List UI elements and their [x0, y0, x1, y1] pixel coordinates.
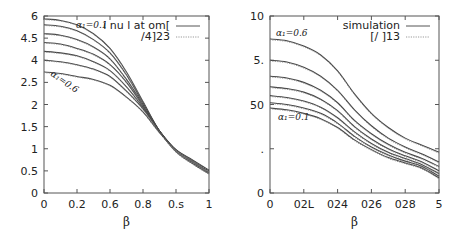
x-tick-label: 0.2 — [68, 198, 86, 211]
alpha-annotation: α₁=0.6 — [49, 68, 81, 94]
series-line-dotted — [44, 25, 209, 173]
right-chart-panel: 002L02402602850.505.10βsimulation[/ ]13α… — [234, 0, 468, 241]
alpha-annotation: α₁=0.1 — [76, 20, 108, 30]
y-tick-label: 10 — [250, 10, 264, 23]
series-group — [270, 39, 439, 179]
y-tick-label: 2 — [31, 99, 38, 112]
y-tick-label: 0 — [31, 187, 38, 200]
y-tick-label: 6 — [31, 10, 38, 23]
series-line-solid — [270, 96, 439, 174]
right-chart: 002L02402602850.505.10βsimulation[/ ]13α… — [234, 0, 468, 241]
x-tick-label: 024 — [327, 198, 348, 211]
y-tick-label: 1.5 — [21, 121, 39, 134]
series-line-solid — [44, 43, 209, 173]
y-tick-label: 2.5 — [21, 76, 39, 89]
y-tick-label: 4.5 — [21, 32, 39, 45]
series-line-solid — [270, 39, 439, 152]
series-line-solid — [44, 60, 209, 171]
legend-label: /4]23 — [141, 30, 170, 43]
legend: simulation[/ ]13 — [343, 19, 430, 43]
y-tick-label: 50 — [250, 99, 264, 112]
left-chart: 00.20.60.80.s100.511.522.544.56βi nu l a… — [0, 0, 234, 241]
series-line-solid — [44, 25, 209, 173]
alpha-annotation: α₁=0.1 — [278, 112, 310, 122]
x-tick-label: 0.s — [168, 198, 184, 211]
x-tick-label: 028 — [395, 198, 416, 211]
x-tick-label: 0 — [41, 198, 48, 211]
x-tick-label: 1 — [206, 198, 213, 211]
alpha-annotation: α₁=0.6 — [276, 28, 308, 38]
left-chart-panel: 00.20.60.80.s100.511.522.544.56βi nu l a… — [0, 0, 234, 241]
x-tick-label: 026 — [361, 198, 382, 211]
series-line-dotted — [270, 96, 439, 174]
legend-label: [/ ]13 — [370, 30, 400, 43]
y-tick-label: 0 — [257, 187, 264, 200]
x-tick-label: 0.8 — [134, 198, 152, 211]
series-line-dotted — [44, 34, 209, 173]
y-tick-label: 5. — [254, 54, 265, 67]
legend: i nu l at om[/4]23 — [103, 19, 200, 43]
series-line-dotted — [44, 52, 209, 172]
series-line-solid — [44, 51, 209, 171]
x-tick-label: 02L — [294, 198, 315, 211]
x-axis-label: β — [351, 215, 358, 229]
x-axis-label: β — [123, 215, 130, 229]
x-tick-label: 0 — [267, 198, 274, 211]
y-tick-label: 0.5 — [21, 165, 39, 178]
x-tick-label: 5 — [436, 198, 443, 211]
y-tick-label: 1 — [31, 143, 38, 156]
x-tick-label: 0.6 — [101, 198, 119, 211]
y-tick-label: 4 — [31, 54, 38, 67]
plot-frame — [44, 16, 209, 193]
series-line-solid — [44, 19, 209, 174]
y-tick-label: . — [261, 143, 265, 156]
series-group — [44, 19, 209, 174]
